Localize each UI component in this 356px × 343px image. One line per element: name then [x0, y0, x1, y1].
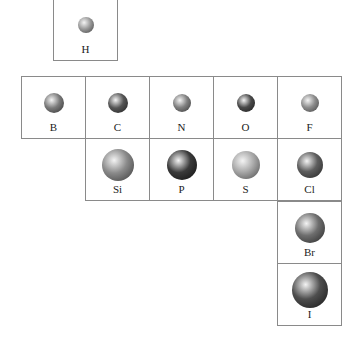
atom-sphere-icon: [173, 94, 191, 112]
element-symbol: I: [278, 308, 341, 320]
element-cell-br: Br: [277, 201, 342, 264]
atom-sphere-icon: [292, 272, 328, 308]
atom-sphere-icon: [295, 213, 325, 243]
element-symbol: S: [214, 183, 277, 195]
element-symbol: H: [54, 43, 117, 55]
element-cell-c: C: [85, 76, 150, 139]
element-cell-b: B: [21, 76, 86, 139]
element-cell-si: Si: [85, 138, 150, 201]
atom-sphere-icon: [78, 17, 94, 33]
element-cell-h: H: [53, 0, 118, 61]
atom-sphere-icon: [102, 149, 134, 181]
element-cell-p: P: [149, 138, 214, 201]
element-cell-cl: Cl: [277, 138, 342, 201]
element-symbol: O: [214, 121, 277, 133]
atom-sphere-icon: [232, 151, 260, 179]
element-symbol: Br: [278, 246, 341, 258]
element-symbol: P: [150, 183, 213, 195]
element-symbol: C: [86, 121, 149, 133]
atom-sphere-icon: [44, 93, 64, 113]
element-cell-i: I: [277, 263, 342, 326]
atom-sphere-icon: [167, 150, 197, 180]
element-symbol: Cl: [278, 183, 341, 195]
element-symbol: N: [150, 121, 213, 133]
element-cell-f: F: [277, 76, 342, 139]
element-symbol: B: [22, 121, 85, 133]
element-symbol: F: [278, 121, 341, 133]
atom-sphere-icon: [108, 93, 128, 113]
element-cell-s: S: [213, 138, 278, 201]
atom-sphere-icon: [301, 94, 319, 112]
element-symbol: Si: [86, 183, 149, 195]
element-cell-o: O: [213, 76, 278, 139]
atom-sphere-icon: [237, 94, 255, 112]
atom-sphere-icon: [297, 152, 323, 178]
element-cell-n: N: [149, 76, 214, 139]
